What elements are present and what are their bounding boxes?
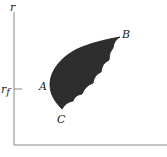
feasible-set-diagram: r rf A B C — [0, 0, 167, 157]
point-b-label: B — [121, 28, 130, 41]
feasible-region — [50, 37, 120, 109]
y-axis-label: r — [10, 1, 16, 14]
point-c-label: C — [57, 113, 66, 126]
rf-label: rf — [1, 83, 12, 97]
point-a-label: A — [38, 80, 47, 93]
